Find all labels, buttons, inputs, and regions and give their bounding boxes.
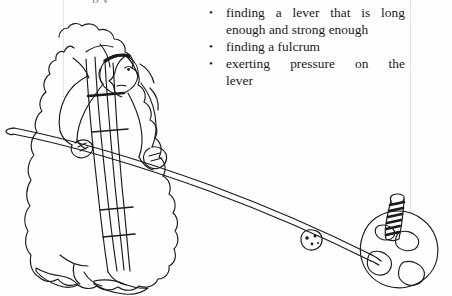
- list-item-label: finding a fulcrum: [226, 39, 320, 54]
- list-item-label-continued: lever: [226, 72, 405, 89]
- column-rule-left: [63, 0, 64, 98]
- figure-left-arm: [59, 76, 103, 158]
- list-item: exerting pressure on the lever: [205, 55, 405, 89]
- striped-fulcrum-post: [385, 194, 404, 241]
- figure-cloak-folds: [73, 44, 158, 110]
- earth-globe: [360, 211, 438, 288]
- figure-cloak: [25, 24, 178, 291]
- moon-rock: [301, 230, 322, 250]
- figure-legs-feet: [36, 255, 148, 294]
- list-item: finding a fulcrum: [205, 38, 405, 55]
- page-canvas: p y finding a lever that is long enough …: [0, 0, 452, 296]
- lever-requirements-list: finding a lever that is long enough and …: [205, 4, 405, 89]
- figure-head: [99, 55, 138, 97]
- column-rule-right: [410, 0, 411, 214]
- figure-staff-bundle: [86, 57, 135, 272]
- lever-pole: [6, 128, 381, 265]
- figure-right-arm: [128, 83, 167, 170]
- list-item: finding a lever that is long enough and …: [205, 4, 405, 38]
- list-item-label: finding a lever that is long enough and …: [226, 5, 405, 37]
- list-item-label: exerting pressure on the: [226, 56, 405, 71]
- clipped-top-text: p y: [92, 0, 342, 3]
